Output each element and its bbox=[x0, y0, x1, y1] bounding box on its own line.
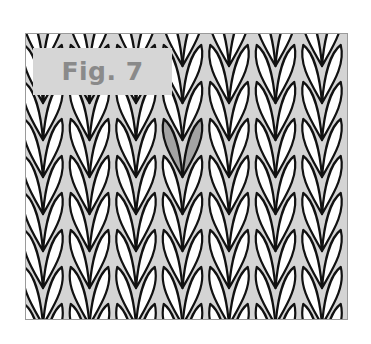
figure-label: Fig. 7 bbox=[33, 48, 172, 95]
figure-label-text: Fig. 7 bbox=[61, 57, 143, 86]
